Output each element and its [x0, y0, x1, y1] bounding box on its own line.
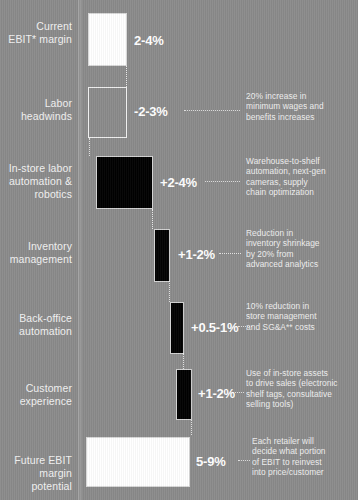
note-line2: automation, next-gen — [246, 166, 354, 176]
value-label: +1-2% — [178, 247, 215, 262]
note-line1: 20% increase in — [246, 91, 354, 101]
bar-connector — [191, 420, 193, 435]
note-line3: of EBIT to reinvest — [252, 457, 358, 467]
value-label: 5-9% — [196, 454, 226, 469]
note-line4: advanced analytics — [246, 259, 354, 269]
row-label-line2: automation — [0, 325, 72, 338]
note-line2: to drive sales (electronic — [246, 378, 358, 388]
note-line2: inventory shrinkage — [246, 238, 354, 248]
row-label-line2: margin potential — [0, 467, 72, 493]
row-label: Future EBIT margin potential — [0, 454, 72, 493]
row-label-line1: Customer — [0, 382, 72, 395]
note-line1: Reduction in — [246, 228, 354, 238]
row-label-line1: Labor — [0, 97, 72, 110]
leader-line — [232, 392, 244, 394]
bar-customer-experience — [176, 369, 192, 420]
chart-row-future-ebit-margin-potential: Future EBIT margin potential 5-9% Each r… — [0, 434, 358, 500]
row-label-line2: EBIT* margin — [0, 33, 72, 46]
note-line1: Use of in-store assets — [246, 368, 358, 378]
annotation-note: Each retailer will decide what portion o… — [252, 436, 358, 478]
value-label: -2-3% — [134, 104, 168, 119]
row-label: Labor headwinds — [0, 97, 72, 123]
note-line3: by 20% from — [246, 249, 354, 259]
leader-line — [205, 181, 240, 183]
row-label-line2: automation & — [0, 175, 72, 188]
row-label: Back-office automation — [0, 312, 72, 338]
note-line1: 10% reduction in — [246, 301, 354, 311]
row-label-line1: Future EBIT — [0, 454, 72, 467]
bar-labor-headwinds — [88, 87, 127, 138]
chart-row-labor-headwinds: Labor headwinds -2-3% 20% increase in mi… — [0, 78, 358, 150]
bar-inventory-management — [154, 229, 170, 282]
row-label-line3: robotics — [0, 188, 72, 201]
row-label: Customer experience — [0, 382, 72, 408]
annotation-note: 20% increase in minimum wages and benefi… — [246, 91, 354, 122]
chart-row-back-office-automation: Back-office automation +0.5-1% 10% reduc… — [0, 294, 358, 366]
value-label: 2-4% — [134, 33, 164, 48]
waterfall-chart: Current EBIT* margin 2-4% Labor headwind… — [0, 0, 358, 500]
note-line1: Warehouse-to-shelf — [246, 156, 354, 166]
leader-line — [219, 253, 241, 255]
chart-row-in-store-labor-automation: In-store labor automation & robotics +2-… — [0, 150, 358, 222]
leader-line — [238, 460, 250, 462]
note-line2: minimum wages and — [246, 101, 354, 111]
row-label-line2: experience — [0, 395, 72, 408]
note-line3: shelf tags, consultative — [246, 389, 358, 399]
chart-row-current-ebit-margin: Current EBIT* margin 2-4% — [0, 0, 358, 78]
chart-row-inventory-management: Inventory management +1-2% Reduction in … — [0, 222, 358, 294]
bar-back-office-automation — [170, 302, 184, 354]
note-line3: cameras, supply — [246, 177, 354, 187]
chart-row-customer-experience: Customer experience +1-2% Use of in-stor… — [0, 366, 358, 434]
note-line2: decide what portion — [252, 446, 358, 456]
note-line4: chain optimization — [246, 187, 354, 197]
bar-in-store-labor-automation — [96, 156, 153, 209]
leader-line — [184, 110, 240, 112]
annotation-note: Reduction in inventory shrinkage by 20% … — [246, 228, 354, 270]
row-label-line1: Inventory — [0, 240, 72, 253]
note-line2: store management — [246, 311, 354, 321]
note-line3: benefits increases — [246, 112, 354, 122]
note-line4: into price/customer — [252, 467, 358, 477]
annotation-note: Use of in-store assets to drive sales (e… — [246, 368, 358, 410]
row-label-line1: Current — [0, 20, 72, 33]
row-label-line1: Back-office — [0, 312, 72, 325]
note-line4: selling tools) — [246, 399, 358, 409]
note-line3: and SG&A** costs — [246, 322, 354, 332]
row-label-line2: headwinds — [0, 110, 72, 123]
bar-current-ebit-margin — [88, 13, 127, 66]
value-label: +0.5-1% — [191, 320, 238, 335]
row-label-line1: In-store labor — [0, 162, 72, 175]
note-line1: Each retailer will — [252, 436, 358, 446]
annotation-note: 10% reduction in store management and SG… — [246, 301, 354, 332]
row-label: In-store labor automation & robotics — [0, 162, 72, 201]
row-label: Current EBIT* margin — [0, 20, 72, 46]
row-label: Inventory management — [0, 240, 72, 266]
value-label: +1-2% — [198, 386, 235, 401]
row-label-line2: management — [0, 253, 72, 266]
annotation-note: Warehouse-to-shelf automation, next-gen … — [246, 156, 354, 198]
bar-future-ebit-margin-potential — [86, 437, 190, 487]
value-label: +2-4% — [160, 175, 197, 190]
